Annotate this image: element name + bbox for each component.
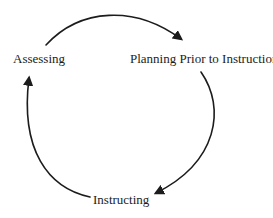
node-label-instructing: Instructing <box>93 193 149 207</box>
arrow-instructing-to-assessing <box>27 78 90 197</box>
diagram-arrows-layer <box>0 0 273 218</box>
arrow-planning-to-instructing <box>156 72 214 193</box>
cycle-diagram: Assessing Planning Prior to Instruction … <box>0 0 273 218</box>
node-label-assessing: Assessing <box>13 52 65 66</box>
node-label-planning-prior-to-instruction: Planning Prior to Instruction <box>130 52 273 66</box>
arrow-assessing-to-planning <box>46 15 181 45</box>
